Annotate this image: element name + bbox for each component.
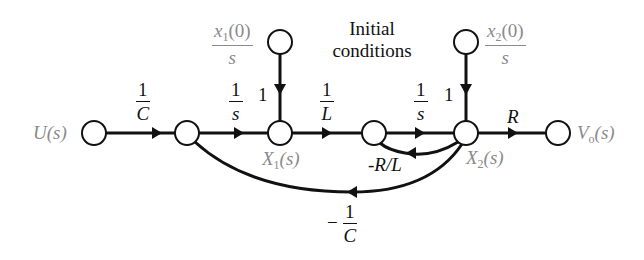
arrow-x2-vo [508, 127, 518, 139]
gain-ic1: 1 [258, 85, 268, 104]
gain-u-n1-num: 1 [136, 80, 150, 100]
branch-x2-n3-feedback [380, 142, 458, 154]
label-ic2: x2(0) s [485, 21, 526, 68]
node-n3 [362, 121, 386, 145]
gain-u-n1-bar [136, 101, 150, 102]
ic1-frac-bar [212, 45, 253, 46]
gain-x1-n3-bar [320, 101, 334, 102]
x1-main: X [262, 148, 274, 169]
node-vo [546, 121, 570, 145]
gain-n3-x2-bar [414, 101, 428, 102]
vo-main: V [577, 122, 589, 143]
gain-feedback-c-den: C [343, 226, 356, 246]
x1-tail: (s) [280, 148, 300, 169]
gain-u-n1: 1 C [136, 80, 150, 124]
label-u: U(s) [33, 123, 67, 142]
node-ic2 [454, 30, 478, 54]
gain-x1-n3: 1 L [320, 80, 334, 124]
arrow-n3-x2 [415, 127, 425, 139]
gain-x1-n3-den: L [321, 104, 332, 124]
gain-n1-x1-bar [229, 101, 243, 102]
gain-n1-x1: 1 s [229, 80, 243, 124]
branch-x2-n1-feedback [195, 142, 462, 192]
gain-feedback-c-bar [343, 223, 357, 224]
arrow-n1-x1 [234, 127, 244, 139]
arrow-x1-n3 [322, 127, 332, 139]
node-n1 [175, 121, 199, 145]
label-ic1: x1(0) s [212, 21, 253, 68]
node-u [82, 121, 106, 145]
ic2-den: s [502, 48, 509, 68]
vo-tail: (s) [595, 122, 615, 143]
gain-n1-x1-num: 1 [229, 80, 243, 100]
gain-u-n1-den: C [136, 104, 149, 124]
caption-line1: Initial [310, 18, 434, 40]
ic1-num-tail: (0) [228, 20, 250, 41]
ic2-frac-bar [485, 45, 526, 46]
arrow-ic1 [274, 84, 286, 95]
gain-x1-n3-num: 1 [320, 80, 334, 100]
label-vo: Vo(s) [577, 123, 615, 145]
label-x1: X1(s) [262, 149, 300, 171]
ic1-den: s [229, 48, 236, 68]
node-ic1 [268, 30, 292, 54]
x2-main: X [466, 147, 478, 168]
gain-feedback-rl: -R/L [368, 155, 402, 174]
gain-ic2: 1 [444, 85, 454, 104]
gain-feedback-c-num: 1 [343, 202, 357, 222]
gain-n3-x2-den: s [417, 104, 424, 124]
arrow-u-n1 [152, 127, 162, 139]
arrow-feedback-rl [406, 147, 416, 159]
gain-n3-x2-num: 1 [414, 80, 428, 100]
node-x2 [454, 121, 478, 145]
arrow-ic2 [460, 84, 472, 95]
gain-feedback-c: 1 C [343, 202, 357, 246]
gain-x2-vo: R [507, 107, 519, 126]
label-x2: X2(s) [466, 148, 504, 170]
ic2-num-tail: (0) [501, 20, 523, 41]
gain-n3-x2: 1 s [414, 80, 428, 124]
initial-conditions-caption: Initial conditions [310, 18, 434, 62]
arrow-feedback-c [347, 186, 357, 198]
node-x1 [268, 121, 292, 145]
gain-n1-x1-den: s [232, 104, 239, 124]
gain-feedback-c-sign: − [327, 213, 338, 232]
caption-line2: conditions [310, 40, 434, 62]
x2-tail: (s) [484, 147, 504, 168]
